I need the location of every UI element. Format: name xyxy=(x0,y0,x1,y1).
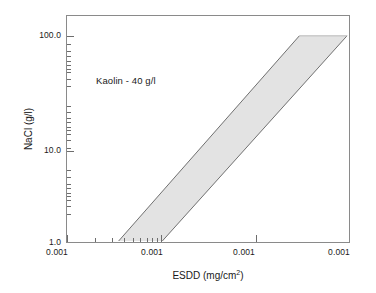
x-tick-minor xyxy=(140,238,141,242)
y-tick-minor xyxy=(67,177,71,178)
y-axis-title: NaCl (g/l) xyxy=(23,108,34,150)
x-tick-label: 0.001 xyxy=(233,247,255,257)
x-tick-label: 0.001 xyxy=(46,247,68,257)
y-tick-minor xyxy=(67,134,71,135)
plot-area: Kaolin - 40 g/l xyxy=(66,15,350,243)
x-tick-minor xyxy=(112,238,113,242)
y-tick-minor xyxy=(67,86,71,87)
x-axis-title-text: ESDD (mg/cm xyxy=(172,270,236,281)
y-tick-label: 1.0 xyxy=(49,237,61,247)
y-tick-minor xyxy=(67,122,71,123)
x-tick-major xyxy=(161,235,162,242)
band-upper-edge xyxy=(162,36,347,241)
x-tick-minor xyxy=(152,238,153,242)
y-tick-minor xyxy=(67,140,71,141)
y-tick-major xyxy=(67,151,74,152)
y-tick-minor xyxy=(67,188,71,189)
x-axis-title-tail: ) xyxy=(240,270,243,281)
y-tick-minor xyxy=(67,127,71,128)
y-tick-minor xyxy=(67,72,71,73)
y-tick-minor xyxy=(67,106,71,107)
y-tick-minor xyxy=(67,170,71,171)
y-tick-label: 100.0 xyxy=(39,30,61,40)
x-axis-title: ESDD (mg/cm2) xyxy=(172,270,243,281)
x-tick-minor xyxy=(124,238,125,242)
y-tick-minor xyxy=(67,69,71,70)
x-tick-minor xyxy=(147,238,148,242)
band-fill xyxy=(119,36,347,241)
x-tick-label: 0.001 xyxy=(141,247,163,257)
x-tick-label: 0.001 xyxy=(328,247,350,257)
y-tick-minor xyxy=(67,79,71,80)
y-tick-major xyxy=(67,36,74,37)
x-tick-minor xyxy=(95,238,96,242)
y-tick-minor xyxy=(67,206,71,207)
y-tick-label: 10.0 xyxy=(44,145,61,155)
shaded-band xyxy=(67,16,349,242)
y-tick-minor xyxy=(67,51,71,52)
x-tick-major xyxy=(67,235,68,242)
x-tick-minor xyxy=(133,238,134,242)
y-tick-minor xyxy=(67,118,71,119)
y-tick-minor xyxy=(67,200,71,201)
y-tick-minor xyxy=(67,44,71,45)
y-tick-minor xyxy=(67,148,71,149)
y-tick-minor xyxy=(67,196,71,197)
chart-figure: Kaolin - 40 g/l xyxy=(0,0,376,293)
x-tick-minor xyxy=(157,238,158,242)
y-tick-minor xyxy=(67,214,71,215)
y-tick-minor xyxy=(67,112,71,113)
y-tick-minor xyxy=(67,193,71,194)
band-lower-edge xyxy=(119,36,300,241)
y-tick-minor xyxy=(67,61,71,62)
y-tick-minor xyxy=(67,184,71,185)
y-tick-minor xyxy=(67,56,71,57)
x-tick-major xyxy=(256,235,257,242)
plot-annotation: Kaolin - 40 g/l xyxy=(96,75,156,86)
y-tick-minor xyxy=(67,130,71,131)
y-tick-minor xyxy=(67,65,71,66)
